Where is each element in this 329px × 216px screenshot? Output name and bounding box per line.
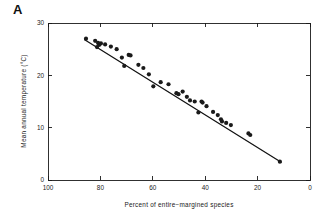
data-point xyxy=(220,119,224,123)
data-point xyxy=(188,98,192,102)
data-point xyxy=(166,82,170,86)
regression-line xyxy=(85,40,282,162)
svg-text:30: 30 xyxy=(37,19,45,26)
svg-text:20: 20 xyxy=(254,184,262,191)
data-point xyxy=(248,133,252,137)
data-point xyxy=(224,121,228,125)
svg-text:60: 60 xyxy=(149,184,157,191)
svg-text:0: 0 xyxy=(40,176,44,183)
scatter-plot: 100806040200 0102030 Percent of entire−m… xyxy=(0,0,329,216)
data-point xyxy=(99,41,103,45)
data-point xyxy=(109,44,113,48)
x-axis-title: Percent of entire−margined species xyxy=(124,201,233,209)
data-point xyxy=(196,110,200,114)
data-point xyxy=(120,55,124,59)
data-point xyxy=(128,53,132,57)
data-point xyxy=(103,42,107,46)
svg-text:40: 40 xyxy=(202,184,210,191)
data-point xyxy=(147,72,151,76)
data-point xyxy=(141,66,145,70)
x-axis-tick-labels: 100806040200 xyxy=(43,184,313,191)
data-point xyxy=(136,63,140,67)
data-point xyxy=(229,123,233,127)
data-point xyxy=(181,89,185,93)
y-axis-title: Mean annual temperature (°C) xyxy=(20,54,28,147)
svg-text:10: 10 xyxy=(37,124,45,131)
svg-text:20: 20 xyxy=(37,72,45,79)
svg-text:0: 0 xyxy=(308,184,312,191)
data-point xyxy=(176,92,180,96)
data-point xyxy=(216,113,220,117)
svg-text:80: 80 xyxy=(97,184,105,191)
data-point xyxy=(151,84,155,88)
data-point xyxy=(278,160,282,164)
x-axis-tick-marks xyxy=(48,23,310,180)
y-axis-tick-labels: 0102030 xyxy=(37,19,45,183)
y-axis-tick-marks xyxy=(48,23,310,180)
data-point xyxy=(159,80,163,84)
data-point xyxy=(84,37,88,41)
data-point xyxy=(193,99,197,103)
data-point xyxy=(200,100,204,104)
figure-panel: A 100806040200 0102030 Percent of entire… xyxy=(0,0,329,216)
data-point xyxy=(185,95,189,99)
data-point xyxy=(211,110,215,114)
plot-frame xyxy=(48,23,310,180)
data-point xyxy=(122,64,126,68)
data-point xyxy=(204,104,208,108)
data-point xyxy=(115,47,119,51)
svg-text:100: 100 xyxy=(43,184,54,191)
